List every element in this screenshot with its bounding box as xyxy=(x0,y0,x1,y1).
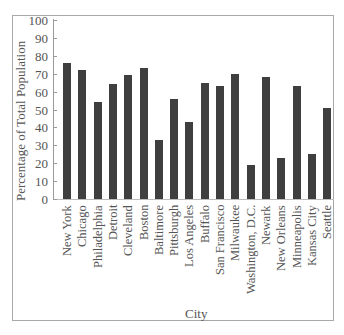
x-tick-label: Philadelphia xyxy=(91,206,106,269)
y-tick xyxy=(53,38,57,39)
x-axis-line xyxy=(53,199,334,200)
x-tick-label: Los Angeles xyxy=(182,205,197,267)
y-tick-label: 90 xyxy=(24,32,48,45)
y-tick-label: 60 xyxy=(24,86,48,99)
bar xyxy=(94,102,102,199)
y-tick xyxy=(53,163,57,164)
x-tick-label: Minneapolis xyxy=(290,206,305,269)
bar xyxy=(262,77,270,199)
bar xyxy=(78,70,86,199)
bar xyxy=(170,99,178,199)
bar xyxy=(63,63,71,199)
x-tick-label: Newark xyxy=(259,205,274,245)
y-tick xyxy=(53,199,57,200)
y-tick-label: 50 xyxy=(24,104,48,117)
y-tick xyxy=(53,92,57,93)
bar xyxy=(277,158,285,199)
bar xyxy=(247,165,255,199)
x-tick-label: Boston xyxy=(137,205,152,240)
y-tick xyxy=(53,56,57,57)
bar xyxy=(231,74,239,199)
bar xyxy=(155,140,163,199)
bar xyxy=(109,84,117,199)
y-tick-label: 40 xyxy=(24,121,48,134)
x-tick-label: Detroit xyxy=(106,205,121,240)
bar xyxy=(185,122,193,199)
x-tick-label: Chicago xyxy=(75,205,90,247)
x-tick-label: Milwaukee xyxy=(228,205,243,261)
bar xyxy=(124,75,132,199)
x-tick-label: Buffalo xyxy=(198,205,213,243)
x-tick-label: San Francisco xyxy=(213,205,228,275)
y-tick xyxy=(53,74,57,75)
bar xyxy=(308,154,316,199)
bar xyxy=(293,86,301,199)
y-tick xyxy=(53,110,57,111)
x-tick-label: New York xyxy=(60,205,75,256)
x-tick-label: Seattle xyxy=(320,205,335,239)
bar xyxy=(201,83,209,199)
y-tick xyxy=(53,127,57,128)
y-tick-label: 10 xyxy=(24,175,48,188)
x-tick-label: Washington, D.C. xyxy=(244,205,259,294)
y-tick-label: 20 xyxy=(24,157,48,170)
y-tick-label: 30 xyxy=(24,139,48,152)
y-tick-label: 70 xyxy=(24,68,48,81)
x-tick-label: Kansas City xyxy=(305,205,320,266)
y-tick xyxy=(53,145,57,146)
y-tick-label: 80 xyxy=(24,50,48,63)
bar xyxy=(323,108,331,199)
y-tick xyxy=(53,20,57,21)
x-tick-label: Baltimore xyxy=(152,205,167,255)
y-tick-label: 0 xyxy=(24,193,48,206)
y-tick xyxy=(53,181,57,182)
y-tick-label: 100 xyxy=(24,14,48,27)
bar xyxy=(140,68,148,199)
x-tick-label: Cleveland xyxy=(121,205,136,256)
bar xyxy=(216,86,224,199)
x-tick-label: New Orleans xyxy=(274,205,289,271)
x-tick-label: Pittsburgh xyxy=(167,205,182,256)
x-axis-title: City xyxy=(185,306,207,322)
